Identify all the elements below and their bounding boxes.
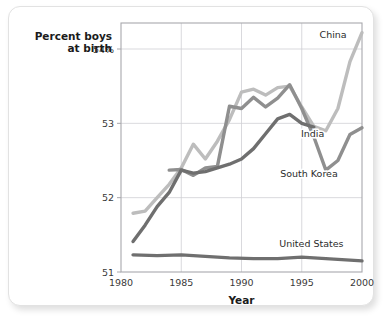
chart-svg: 51525354%19801985199019952000ChinaChinaS…: [0, 0, 392, 327]
ytick-label-51: 51: [102, 267, 114, 278]
xtick-label-2000: 2000: [350, 277, 374, 288]
y-axis-title-line1: Percent boys: [35, 30, 112, 42]
xtick-label-1985: 1985: [169, 277, 193, 288]
series-line-south-korea: [169, 85, 362, 176]
series-label-united-states: United States: [279, 238, 343, 249]
series-label-china: China: [320, 29, 347, 40]
ytick-label-52: 52: [102, 192, 114, 203]
ytick-label-53: 53: [102, 118, 114, 129]
y-axis-title-line2: at birth: [67, 42, 112, 54]
xtick-label-1995: 1995: [290, 277, 314, 288]
series-label-india: India: [301, 128, 324, 139]
line-chart: 51525354%19801985199019952000ChinaChinaS…: [0, 0, 392, 327]
xtick-label-1980: 1980: [109, 277, 133, 288]
x-axis-title: Year: [227, 294, 255, 306]
xtick-label-1990: 1990: [229, 277, 253, 288]
series-label-south-korea: South Korea: [280, 168, 338, 179]
series-line-united-states: [133, 255, 362, 261]
